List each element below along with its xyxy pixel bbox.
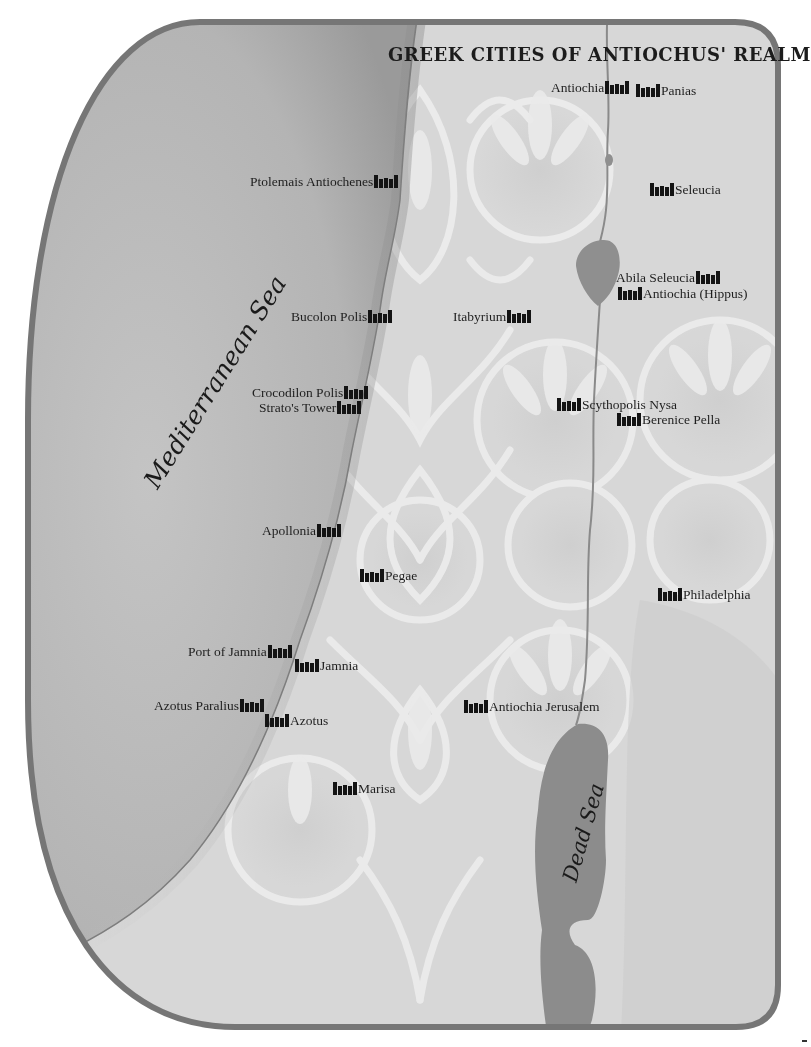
fortress-icon (636, 83, 660, 97)
city-label: Bucolon Polis (290, 310, 368, 324)
fortress-icon (337, 400, 361, 414)
city-abila-seleucia[interactable]: Abila Seleucia (615, 270, 720, 285)
fortress-icon (360, 568, 384, 582)
city-label: Antiochia (Hippus) (642, 287, 749, 301)
city-label: Antiochia (550, 81, 605, 95)
city-antiochia-hippus[interactable]: Antiochia (Hippus) (618, 286, 749, 301)
city-stratos-tower[interactable]: Strato's Tower (258, 400, 361, 415)
fortress-icon (557, 397, 581, 411)
city-scythopolis-nysa[interactable]: Scythopolis Nysa (557, 397, 678, 412)
city-label: Berenice Pella (641, 413, 721, 427)
city-label: Azotus (289, 714, 329, 728)
land-shading (620, 600, 790, 1047)
city-berenice-pella[interactable]: Berenice Pella (617, 412, 721, 427)
fortress-icon (317, 523, 341, 537)
city-label: Abila Seleucia (615, 271, 696, 285)
city-panias[interactable]: Panias (636, 83, 697, 98)
city-label: Ptolemais Antiochenes (249, 175, 374, 189)
city-label: Itabyrium (452, 310, 507, 324)
city-ptolemais-antiochenes[interactable]: Ptolemais Antiochenes (249, 174, 398, 189)
city-azotus-paralius[interactable]: Azotus Paralius (153, 698, 264, 713)
city-azotus[interactable]: Azotus (265, 713, 329, 728)
fortress-icon (618, 286, 642, 300)
fortress-icon (240, 698, 264, 712)
city-label: Marisa (357, 782, 397, 796)
lake-huleh (605, 154, 613, 166)
city-label: Jamnia (319, 659, 359, 673)
city-label: Seleucia (674, 183, 722, 197)
city-label: Apollonia (261, 524, 317, 538)
fortress-icon (605, 80, 629, 94)
city-marisa[interactable]: Marisa (333, 781, 397, 796)
fortress-icon (333, 781, 357, 795)
city-label: Pegae (384, 569, 418, 583)
page-edge-mark (802, 1040, 807, 1042)
city-pegae[interactable]: Pegae (360, 568, 418, 583)
fortress-icon (265, 713, 289, 727)
fortress-icon (268, 644, 292, 658)
fortress-icon (374, 174, 398, 188)
city-label: Antiochia Jerusalem (488, 700, 601, 714)
city-crocodilon-polis[interactable]: Crocodilon Polis (251, 385, 368, 400)
fortress-icon (295, 658, 319, 672)
city-port-of-jamnia[interactable]: Port of Jamnia (187, 644, 292, 659)
city-label: Scythopolis Nysa (581, 398, 678, 412)
city-antiochia-jerusalem[interactable]: Antiochia Jerusalem (464, 699, 601, 714)
fortress-icon (344, 385, 368, 399)
city-label: Port of Jamnia (187, 645, 268, 659)
city-bucolon-polis[interactable]: Bucolon Polis (290, 309, 392, 324)
city-label: Philadelphia (682, 588, 752, 602)
fortress-icon (507, 309, 531, 323)
city-antiochia[interactable]: Antiochia (550, 80, 629, 95)
city-label: Panias (660, 84, 697, 98)
fortress-icon (617, 412, 641, 426)
city-label: Azotus Paralius (153, 699, 240, 713)
fortress-icon (650, 182, 674, 196)
city-apollonia[interactable]: Apollonia (261, 523, 341, 538)
fortress-icon (368, 309, 392, 323)
fortress-icon (696, 270, 720, 284)
city-label: Strato's Tower (258, 401, 337, 415)
city-jamnia[interactable]: Jamnia (295, 658, 359, 673)
city-seleucia[interactable]: Seleucia (650, 182, 722, 197)
city-label: Crocodilon Polis (251, 386, 344, 400)
city-philadelphia[interactable]: Philadelphia (658, 587, 752, 602)
city-itabyrium[interactable]: Itabyrium (452, 309, 531, 324)
fortress-icon (464, 699, 488, 713)
fortress-icon (658, 587, 682, 601)
map-title: GREEK CITIES OF ANTIOCHUS' REALM (388, 44, 811, 65)
